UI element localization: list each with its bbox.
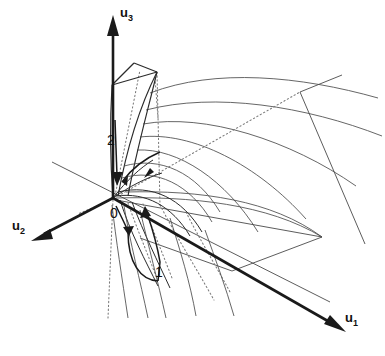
rotation-label-2: 2 — [107, 133, 115, 147]
nested-curve-down-7 — [205, 230, 234, 316]
nested-curve-down-4 — [124, 206, 148, 318]
u3-axis-arrowhead — [107, 15, 119, 36]
arc-outer-5 — [137, 150, 258, 232]
rotation-label-1: 1 — [155, 265, 163, 279]
dotted-radial-line — [118, 92, 300, 196]
arc-outer-1 — [150, 78, 378, 98]
rotation-axis-2-shaft — [115, 120, 117, 176]
u1-axis-arrowhead — [324, 315, 346, 332]
arc-outer-3 — [143, 122, 356, 186]
coordinate-surface-arcs — [137, 78, 382, 232]
diagram-canvas — [0, 0, 385, 356]
arc-outer-2 — [146, 102, 382, 136]
u2-axis-shaft — [44, 198, 113, 234]
diagonal-short-upper — [300, 75, 342, 92]
u2-axis-arrowhead — [31, 229, 53, 241]
arc-outer-4 — [140, 136, 306, 219]
axis-label-u2: u2 — [12, 219, 25, 236]
plane-trace-line-a — [52, 162, 330, 302]
diagonal-long — [300, 92, 365, 244]
nested-curve-down-3 — [112, 205, 128, 318]
axis-triad — [31, 15, 346, 332]
axis-label-u3: u3 — [120, 6, 133, 23]
dotted-apex-drop — [157, 72, 160, 205]
axis-label-u1: u1 — [345, 311, 358, 328]
construction-lines — [52, 162, 330, 302]
ribbon-top-edge-a — [134, 63, 157, 72]
right-diagonal-lines — [300, 75, 365, 244]
rotation-label-0: 0 — [110, 206, 118, 220]
figure-container: u3 u2 u1 0 1 2 — [0, 0, 385, 356]
wedge-edge-upper — [232, 237, 322, 271]
